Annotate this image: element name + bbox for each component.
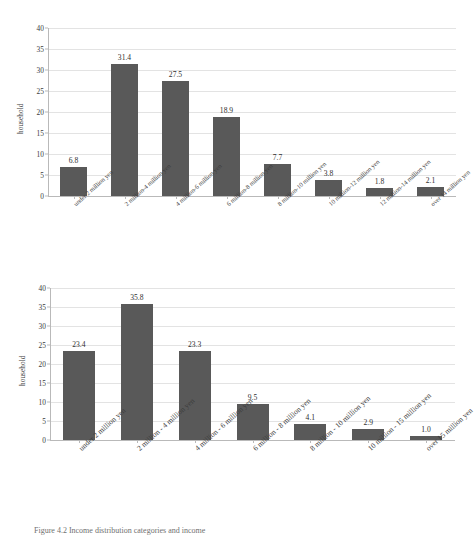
y-axis-tick-label: 0: [40, 192, 44, 201]
bar-value-label: 1.8: [375, 177, 385, 186]
bar: [111, 64, 138, 196]
y-axis-tick-label: 20: [37, 108, 44, 117]
gridline: [48, 49, 456, 50]
gridline: [50, 345, 455, 346]
y-axis-tick-label: 15: [39, 379, 46, 388]
bar-chart-top: 05101520253035406.831.427.518.97.73.81.8…: [0, 6, 475, 264]
y-axis-tick-label: 35: [39, 303, 46, 312]
gridline: [50, 326, 455, 327]
bar-value-label: 1.0: [421, 425, 431, 434]
y-axis-title: household: [19, 356, 27, 386]
bar-value-label: 2.1: [426, 176, 436, 185]
bar-value-label: 4.1: [306, 413, 316, 422]
y-axis-tick-label: 30: [37, 66, 44, 75]
bar-value-label: 18.9: [220, 106, 233, 115]
bar-value-label: 35.8: [130, 293, 143, 302]
bar-value-label: 2.9: [363, 418, 373, 427]
y-axis-line: [48, 28, 49, 196]
gridline: [48, 28, 456, 29]
y-axis-line: [50, 288, 51, 440]
bar: [63, 351, 95, 440]
y-axis-tick-label: 30: [39, 322, 46, 331]
figure-caption: Figure 4.2 Income distribution categorie…: [34, 525, 464, 537]
y-axis-tick-label: 20: [39, 360, 46, 369]
y-axis-tick-label: 10: [37, 150, 44, 159]
gridline: [48, 154, 456, 155]
y-axis-tick-label: 40: [37, 24, 44, 33]
gridline: [48, 133, 456, 134]
bar: [213, 117, 240, 196]
y-axis-tick-label: 35: [37, 45, 44, 54]
y-axis-tick-label: 5: [42, 417, 46, 426]
bar-value-label: 23.3: [188, 340, 201, 349]
y-axis-tick-label: 25: [37, 87, 44, 96]
bar-value-label: 7.7: [273, 153, 283, 162]
bar: [179, 351, 211, 440]
bar-value-label: 3.8: [324, 169, 334, 178]
gridline: [48, 91, 456, 92]
gridline: [50, 383, 455, 384]
gridline: [50, 364, 455, 365]
gridline: [48, 112, 456, 113]
gridline: [48, 70, 456, 71]
bar-value-label: 23.4: [72, 340, 85, 349]
bar-value-label: 27.5: [169, 70, 182, 79]
bar-value-label: 31.4: [118, 53, 131, 62]
bar-chart-bottom: 051015202530354023.435.823.39.54.12.91.0…: [0, 272, 475, 512]
bar: [121, 304, 153, 440]
gridline: [50, 288, 455, 289]
y-axis-tick-label: 15: [37, 129, 44, 138]
y-axis-tick-label: 40: [39, 284, 46, 293]
y-axis-title: household: [17, 104, 25, 134]
y-axis-tick-label: 25: [39, 341, 46, 350]
y-axis-tick-label: 5: [40, 171, 44, 180]
gridline: [50, 307, 455, 308]
y-axis-tick-label: 10: [39, 398, 46, 407]
bar: [162, 81, 189, 197]
bar-value-label: 6.8: [69, 156, 79, 165]
y-axis-tick-label: 0: [42, 436, 46, 445]
